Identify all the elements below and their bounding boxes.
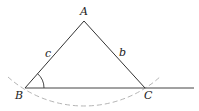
angle-b-marker bbox=[38, 74, 44, 88]
side-c bbox=[25, 21, 84, 88]
vertex-label-b: B bbox=[14, 89, 23, 102]
side-label-b: b bbox=[119, 46, 126, 59]
side-b bbox=[84, 21, 145, 88]
triangle-diagram: A B C c b bbox=[0, 0, 199, 111]
vertex-label-c: C bbox=[144, 89, 153, 102]
side-label-c: c bbox=[45, 47, 51, 60]
vertex-label-a: A bbox=[79, 5, 88, 18]
